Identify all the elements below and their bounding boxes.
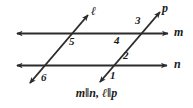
angle-label-4: 4	[114, 35, 120, 46]
line-label-m: m	[174, 26, 183, 38]
line-l	[30, 15, 88, 83]
line-label-n: n	[174, 58, 181, 70]
line-label-l: ℓ	[91, 5, 96, 17]
angle-label-2: 2	[123, 50, 129, 61]
line-label-p: p	[162, 2, 168, 14]
figure-caption: m‖n, ℓ‖p	[0, 86, 193, 101]
angle-label-5: 5	[69, 36, 75, 47]
geometry-figure: m n ℓ p 1 2 3 4 5 6 m‖n, ℓ‖p	[0, 0, 193, 108]
line-p	[100, 12, 160, 82]
angle-label-1: 1	[110, 70, 116, 81]
angle-label-3: 3	[135, 15, 141, 26]
angle-label-6: 6	[41, 72, 47, 83]
